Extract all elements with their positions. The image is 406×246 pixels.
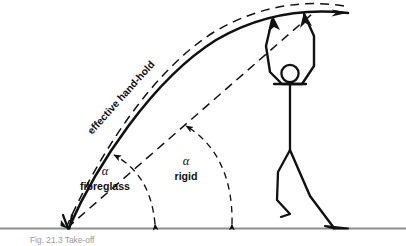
alpha-symbol-rigid: α [183,154,190,168]
vaulter-head [281,65,298,82]
vaulter-stick-figure [266,12,348,229]
diagram-canvas: effective hand-hold α fibreglass α rigid… [0,0,406,246]
alpha-symbol-fibreglass: α [102,164,109,178]
fibreglass-pole-curve [69,10,349,229]
vaulter-plant-leg [290,150,334,228]
vaulter-lead-leg [277,150,290,217]
pole-plant-point [61,215,73,229]
fibreglass-label: fibreglass [80,180,130,192]
figure-caption: Fig. 21.3 Take-off [30,235,95,245]
effective-hand-hold-label: effective hand-hold [85,59,156,137]
fibreglass-pole-path [69,12,349,229]
rigid-label: rigid [175,170,198,182]
pole-vault-diagram: effective hand-hold α fibreglass α rigid… [0,0,406,246]
plant-tick-b [70,215,73,229]
